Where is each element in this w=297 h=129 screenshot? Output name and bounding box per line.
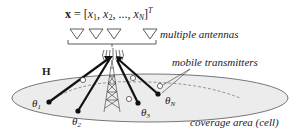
antenna-icon [143,29,157,39]
mimo-diagram: x = [x1, x2, ..., xN]T multiple antennas… [0,0,297,129]
equation: x = [x1, x2, ..., xN]T [65,6,153,22]
antenna-bracket [68,40,156,47]
coverage-label: coverage area (cell) [190,116,279,129]
antenna-icons [70,29,157,39]
antenna-icon [89,29,103,39]
antenna-icon [107,29,121,39]
antennas-label: multiple antennas [160,28,239,40]
antenna-icon [70,29,84,39]
channel-matrix-label: H [42,65,51,77]
transmitters-label: mobile transmitters [172,56,258,68]
